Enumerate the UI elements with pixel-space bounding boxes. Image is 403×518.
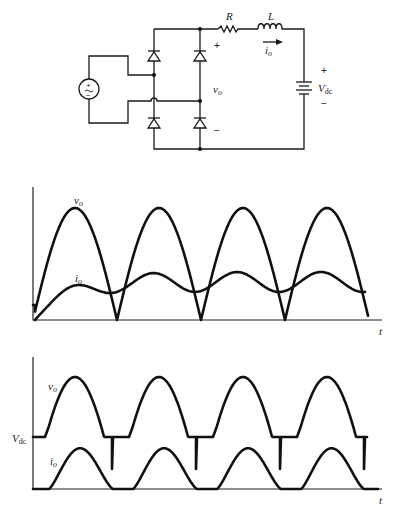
discontinuous-current-plot: vo io Vdc t [12,357,383,506]
io-label: io [75,272,82,286]
circuit-diagram: + − R L io + − vo + Vdc − [79,10,333,151]
t-axis-label: t [379,494,383,506]
t-axis-label: t [379,325,383,337]
node-dot [152,73,156,77]
vo-waveform [33,208,368,320]
source-wire-bottom [89,98,200,123]
resistor-label: R [225,10,233,22]
diode-icon [148,51,160,61]
battery-minus: − [321,98,327,109]
continuous-current-plot: vo io t [33,187,383,337]
output-plus: + [214,40,220,51]
battery-icon [296,82,312,94]
svg-text:+: + [86,81,91,90]
bottom-rail [154,29,304,149]
inductor-label: L [267,10,274,22]
vo-label: vo [48,380,57,394]
node-dot [198,99,202,103]
diode-icon [194,118,206,128]
resistor-icon [218,26,258,32]
output-voltage-label: vo [213,83,222,97]
ac-source-icon: + − [79,79,99,100]
current-label: io [265,44,272,58]
source-wire-top [89,56,154,79]
output-minus: − [214,125,220,136]
svg-text:−: − [86,91,91,100]
battery-label: Vdc [318,82,333,96]
battery-plus: + [321,65,327,76]
node-dot [198,147,202,151]
diode-icon [194,51,206,61]
vdc-level-label: Vdc [12,432,27,446]
io-label: io [50,455,57,469]
diode-icon [148,118,160,128]
vo-waveform [33,377,367,469]
vo-label: vo [74,194,83,208]
node-dot [198,27,202,31]
figure: + − R L io + − vo + Vdc − vo io t vo io … [0,0,403,518]
io-waveform [33,448,378,489]
axes [33,187,382,320]
